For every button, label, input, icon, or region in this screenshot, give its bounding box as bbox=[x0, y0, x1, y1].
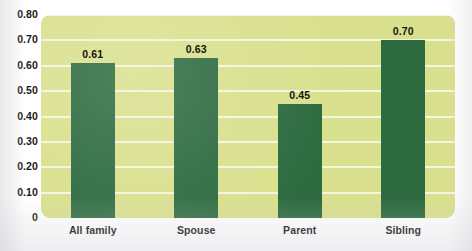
y-axis-tick-label: 0.30 bbox=[2, 135, 38, 147]
bar-all-family bbox=[71, 63, 115, 218]
y-axis: 0.800.700.600.500.400.300.200.100 bbox=[0, 0, 38, 251]
y-axis-tick-label: 0.20 bbox=[2, 160, 38, 172]
y-axis-tick-label: 0.60 bbox=[2, 59, 38, 71]
bar-sibling bbox=[381, 40, 425, 218]
x-axis-label-parent: Parent bbox=[250, 224, 350, 236]
y-axis-tick-label: 0.70 bbox=[2, 33, 38, 45]
bar-value-label: 0.63 bbox=[166, 43, 226, 55]
clipped-chart-title: ........ ......... bbox=[10, 0, 310, 2]
x-axis-label-all-family: All family bbox=[43, 224, 143, 236]
y-axis-tick-label: 0.40 bbox=[2, 110, 38, 122]
x-axis-label-sibling: Sibling bbox=[353, 224, 453, 236]
bar-parent bbox=[278, 104, 322, 218]
bar-spouse bbox=[174, 58, 218, 218]
y-axis-tick-label: 0.10 bbox=[2, 186, 38, 198]
gridline bbox=[41, 15, 455, 16]
y-axis-tick-label: 0.50 bbox=[2, 84, 38, 96]
chart-screenshot: ........ ......... 0.800.700.600.500.400… bbox=[0, 0, 472, 251]
plot-area bbox=[41, 15, 455, 218]
bar-value-label: 0.70 bbox=[373, 25, 433, 37]
y-axis-tick-label: 0.80 bbox=[2, 8, 38, 20]
bar-value-label: 0.61 bbox=[63, 48, 123, 60]
y-axis-tick-label: 0 bbox=[2, 211, 38, 223]
bar-value-label: 0.45 bbox=[270, 89, 330, 101]
x-axis-label-spouse: Spouse bbox=[146, 224, 246, 236]
